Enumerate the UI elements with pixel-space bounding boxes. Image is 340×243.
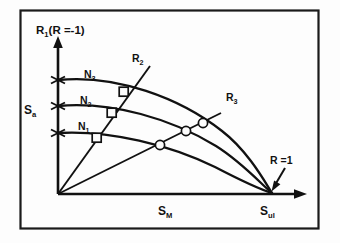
- haigh-diagram-figure: R1(R =-1) Sa SM Sul N3 N2 N1 R2: [0, 0, 340, 243]
- figure-border: [21, 11, 319, 229]
- y-amplitude-label-main: S: [24, 103, 32, 117]
- curve-label-n3-sub: 3: [92, 74, 96, 83]
- marker-circle-r3-n2: [181, 126, 190, 135]
- marker-square-r2-n1: [92, 133, 101, 142]
- curve-label-n3-main: N: [84, 68, 92, 80]
- marker-circle-r3-n3: [198, 118, 207, 127]
- marker-square-r2-n2: [107, 108, 116, 117]
- diagram-canvas: R1(R =-1) Sa SM Sul N3 N2 N1 R2: [0, 0, 340, 243]
- x-axis-label-sub: M: [166, 211, 172, 220]
- x-axis-end-label-main: S: [260, 204, 268, 218]
- r-equals-one-label: R =1: [270, 154, 293, 166]
- radial-label-r2-sub: 2: [140, 58, 144, 67]
- curve-label-n2-main: N: [80, 94, 88, 106]
- curve-label-n1-main: N: [78, 120, 86, 132]
- curve-label-n2-sub: 2: [88, 100, 92, 109]
- x-axis-label-main: S: [158, 204, 166, 218]
- curve-label-n1-sub: 1: [86, 126, 90, 135]
- marker-square-r2-n3: [119, 87, 128, 96]
- y-axis-title-paren: (R =-1): [49, 24, 85, 36]
- x-axis-end-label-sub: ul: [268, 211, 275, 220]
- radial-label-r3-sub: 3: [234, 97, 238, 106]
- marker-circle-r3-n1: [155, 140, 164, 149]
